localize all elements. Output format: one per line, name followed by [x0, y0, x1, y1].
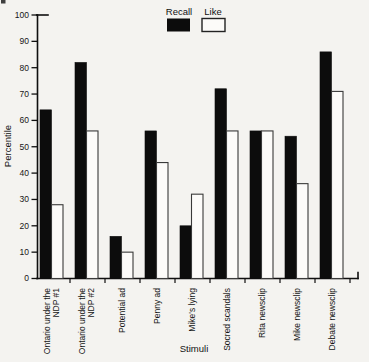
x-category-label: Penny ad	[152, 288, 162, 324]
y-tick-label: 60	[20, 115, 30, 125]
bar-like	[227, 131, 239, 279]
legend-swatch-recall	[167, 19, 190, 32]
x-category-label: Mike newsclip	[292, 288, 302, 341]
y-tick-label: 0	[24, 273, 29, 283]
legend-label-like: Like	[204, 6, 221, 17]
bar-recall	[250, 131, 262, 279]
y-tick-label: 40	[20, 168, 30, 178]
bar-like	[262, 131, 274, 279]
x-axis-title: Stimuli	[180, 343, 209, 354]
bar-recall	[75, 62, 87, 278]
x-category-label: Rita newsclip	[257, 288, 267, 338]
bar-like	[332, 91, 344, 278]
bar-recall	[145, 131, 157, 279]
y-axis-title: Percentile	[2, 125, 13, 167]
x-category-label: Mike's lying	[187, 288, 197, 332]
bar-recall	[285, 136, 297, 278]
bar-like	[52, 205, 64, 279]
bar-recall	[180, 226, 192, 279]
x-category-label: Potential ad	[117, 288, 127, 333]
x-category-label: NDP #1	[51, 288, 61, 318]
bar-recall	[40, 110, 52, 279]
legend-swatch-like	[202, 19, 225, 32]
bar-recall	[110, 236, 122, 278]
y-tick-label: 80	[20, 63, 30, 73]
y-tick-label: 50	[20, 142, 30, 152]
figure-chart: 0102030405060708090100Ontario under theN…	[0, 0, 369, 362]
x-category-label: NDP #2	[86, 288, 96, 318]
bar-like	[157, 163, 169, 279]
bar-like	[122, 252, 134, 278]
y-tick-label: 100	[15, 10, 29, 20]
bar-recall	[215, 89, 227, 279]
x-category-label: Debate newsclip	[327, 288, 337, 351]
y-tick-label: 30	[20, 194, 30, 204]
y-tick-label: 20	[20, 221, 30, 231]
bar-like	[192, 194, 204, 278]
legend-label-recall: Recall	[166, 6, 192, 17]
x-category-label: Ontario under the	[42, 288, 52, 354]
bar-like	[87, 131, 99, 279]
x-category-label: Socred scandals	[222, 288, 232, 351]
y-tick-label: 70	[20, 89, 30, 99]
bar-chart-svg: 0102030405060708090100Ontario under theN…	[0, 0, 369, 362]
x-category-label: Ontario under the	[77, 288, 87, 354]
bar-like	[297, 184, 309, 279]
scan-artifact	[1, 0, 6, 4]
bar-recall	[320, 52, 332, 279]
y-tick-label: 10	[20, 247, 30, 257]
y-tick-label: 90	[20, 36, 30, 46]
